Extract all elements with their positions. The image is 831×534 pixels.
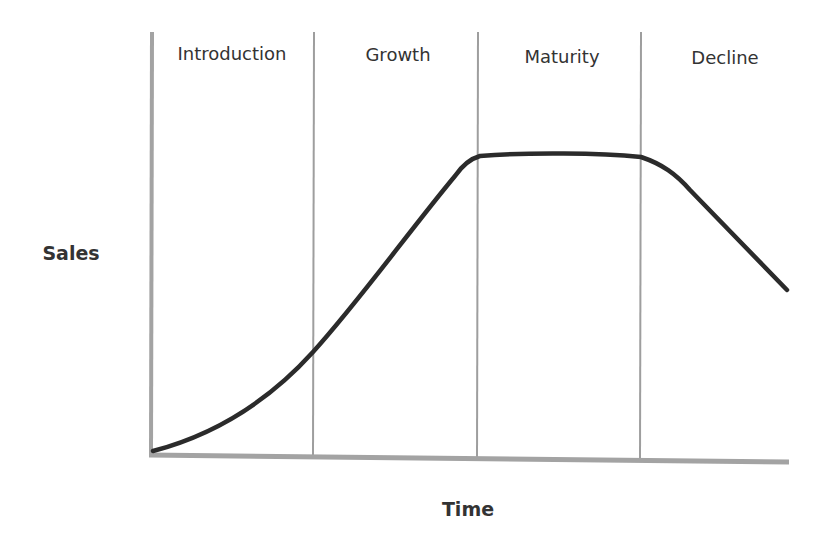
sales-curve: [153, 153, 787, 451]
stage-divider-decline: [640, 32, 641, 461]
stage-divider-maturity: [477, 32, 478, 460]
stage-label-maturity: Maturity: [524, 46, 599, 67]
stage-label-growth: Growth: [365, 44, 430, 65]
stage-label-introduction: Introduction: [177, 43, 286, 64]
stage-divider-growth: [313, 32, 314, 458]
stage-label-decline: Decline: [691, 47, 758, 68]
x-axis: [149, 455, 789, 462]
product-life-cycle-chart: Introduction Growth Maturity Decline Sal…: [0, 0, 831, 534]
y-axis: [151, 32, 152, 456]
y-axis-label: Sales: [42, 242, 99, 264]
x-axis-label: Time: [442, 498, 494, 520]
